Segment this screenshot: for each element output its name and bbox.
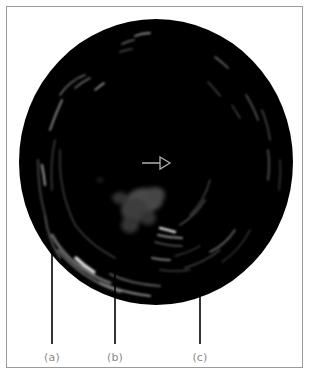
ultrasound-figure xyxy=(0,0,309,375)
label-a: (a) xyxy=(44,351,60,364)
label-c: (c) xyxy=(192,351,207,364)
label-b: (b) xyxy=(107,351,123,364)
